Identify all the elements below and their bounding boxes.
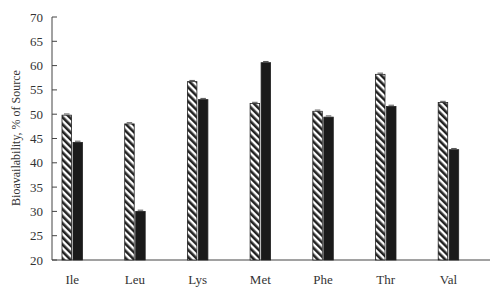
bar-hatched [313, 111, 323, 260]
y-tick-label: 50 [30, 107, 43, 122]
bar-hatched [125, 124, 135, 260]
y-tick-label: 20 [30, 253, 43, 268]
y-tick-label: 60 [30, 58, 43, 73]
bar-solid [73, 142, 83, 260]
bar-group-lys: Lys [187, 80, 208, 287]
bar-group-thr: Thr [376, 73, 397, 287]
bar-solid [387, 106, 397, 260]
bar-solid [449, 150, 459, 260]
bar-solid [198, 100, 208, 260]
y-axis-title: Bioavailability, % of Source [9, 70, 23, 206]
bar-hatched [62, 115, 72, 260]
bar-solid [136, 211, 146, 260]
bar-solid [261, 63, 271, 260]
bar-hatched [438, 103, 448, 260]
x-category-label: Leu [125, 272, 146, 287]
x-category-label: Thr [376, 272, 395, 287]
x-category-label: Phe [313, 272, 333, 287]
x-category-label: Ile [65, 272, 79, 287]
x-category-label: Met [250, 272, 271, 287]
y-tick-label: 45 [30, 131, 43, 146]
y-tick-label: 30 [30, 204, 43, 219]
y-tick-label: 65 [30, 34, 43, 49]
bar-hatched [187, 82, 197, 260]
y-tick-label: 25 [30, 228, 43, 243]
bars: IleLeuLysMetPheThrVal [62, 61, 459, 287]
bar-hatched [376, 74, 386, 260]
bar-solid [324, 117, 334, 260]
y-tick-label: 35 [30, 180, 43, 195]
y-tick-label: 40 [30, 155, 43, 170]
y-tick-label: 55 [30, 82, 43, 97]
bar-hatched [250, 104, 260, 260]
x-category-label: Lys [188, 272, 207, 287]
bar-group-ile: Ile [62, 114, 83, 287]
y-tick-label: 70 [30, 10, 43, 25]
x-category-label: Val [440, 272, 458, 287]
y-axis: 2025303540455055606570 [30, 10, 57, 268]
bar-group-val: Val [438, 101, 459, 287]
bar-group-met: Met [250, 61, 271, 287]
bar-group-leu: Leu [125, 123, 146, 287]
bar-chart: 2025303540455055606570 IleLeuLysMetPheTh… [0, 0, 504, 298]
